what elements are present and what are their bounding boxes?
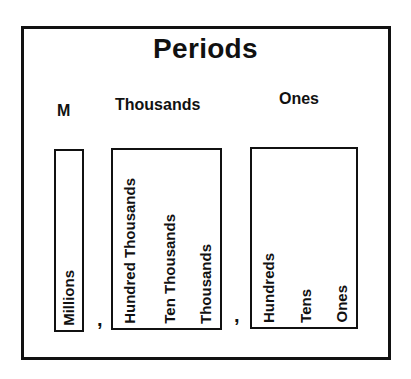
- place-millions: Millions: [61, 270, 76, 326]
- period-label-ones: Ones: [279, 90, 319, 108]
- comma-separator: ,: [97, 308, 103, 331]
- ones-period-box: Hundreds Tens Ones: [250, 147, 358, 329]
- thousands-period-box: Hundred Thousands Ten Thousands Thousand…: [111, 148, 222, 330]
- place-ones: Ones: [334, 285, 349, 323]
- place-ten-thousands: Ten Thousands: [162, 214, 177, 324]
- period-label-millions: M: [57, 102, 70, 120]
- diagram-title: Periods: [0, 33, 411, 65]
- place-tens: Tens: [298, 289, 313, 323]
- comma-separator: ,: [234, 304, 240, 327]
- place-hundred-thousands: Hundred Thousands: [122, 178, 137, 324]
- period-label-thousands: Thousands: [115, 96, 200, 114]
- millions-period-box: Millions: [54, 149, 84, 332]
- place-hundreds: Hundreds: [261, 253, 276, 323]
- place-thousands: Thousands: [198, 244, 213, 324]
